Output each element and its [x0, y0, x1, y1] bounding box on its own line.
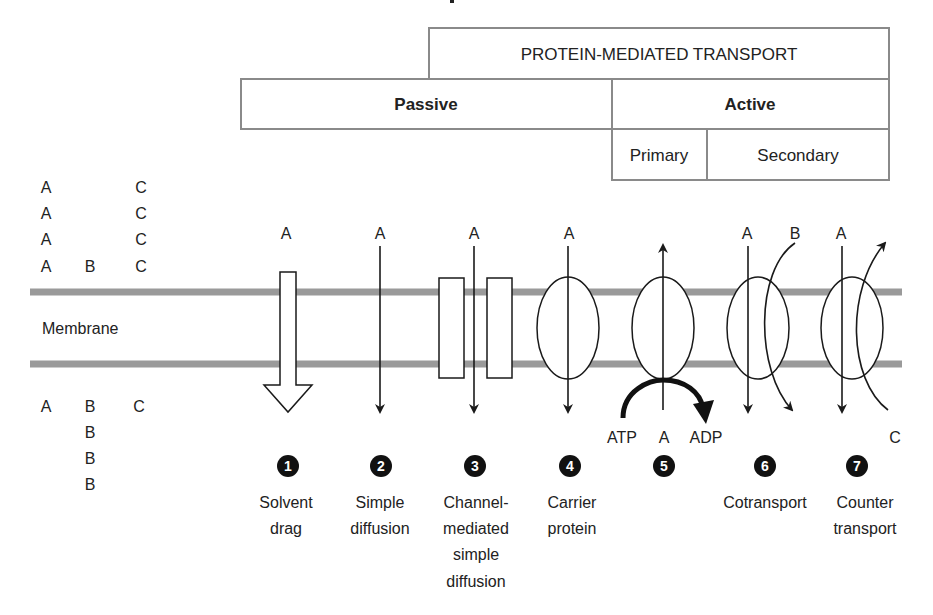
label-channel: simple: [453, 546, 499, 563]
badge-7-text: 7: [853, 458, 861, 474]
mechanism-simple-diffusion: A: [375, 225, 386, 412]
mechanism-countertransport: A C: [821, 225, 901, 446]
mechanism-carrier: A: [537, 225, 599, 412]
molecule-a: A: [41, 231, 52, 248]
inside-molecules: A B B B B C: [41, 398, 145, 493]
badge-5-text: 5: [660, 458, 668, 474]
label-solvent-drag: drag: [270, 520, 302, 537]
protein-mediated-label: PROTEIN-MEDIATED TRANSPORT: [521, 45, 798, 64]
molecule-a: A: [41, 258, 52, 275]
molecule-a: A: [742, 225, 753, 242]
molecule-c: C: [135, 258, 147, 275]
membrane-transport-diagram: PROTEIN-MEDIATED TRANSPORT Passive Activ…: [0, 0, 933, 615]
outside-molecules: A A A A B C C C C: [41, 179, 147, 275]
mechanism-primary-active: ATP A ADP: [607, 245, 722, 446]
mechanism-labels: Solvent drag Simple diffusion Channel- m…: [259, 494, 897, 590]
label-carrier: protein: [548, 520, 597, 537]
badge-6-text: 6: [761, 458, 769, 474]
atp-label: ATP: [607, 429, 637, 446]
molecule-c: C: [135, 231, 147, 248]
molecule-a: A: [836, 225, 847, 242]
molecule-b: B: [85, 258, 96, 275]
molecule-c: C: [135, 179, 147, 196]
atp-arrowhead-icon: [693, 400, 714, 424]
molecule-b: B: [85, 398, 96, 415]
badge-4-text: 4: [566, 458, 574, 474]
badge-1-text: 1: [284, 458, 292, 474]
molecule-a: A: [281, 225, 292, 242]
mechanism-solvent-drag: A: [264, 225, 312, 412]
label-simple-diffusion: diffusion: [350, 520, 409, 537]
molecule-c: C: [889, 429, 901, 446]
label-channel: mediated: [443, 520, 509, 537]
label-countertransport: transport: [833, 520, 897, 537]
number-badges: 1 2 3 4 5 6 7: [277, 455, 868, 477]
badge-2-text: 2: [377, 458, 385, 474]
molecule-a: A: [41, 398, 52, 415]
label-channel: Channel-: [444, 494, 509, 511]
label-cotransport: Cotransport: [723, 494, 807, 511]
adp-label: ADP: [690, 429, 723, 446]
molecule-a: A: [41, 205, 52, 222]
antiporter-protein: [821, 277, 883, 379]
molecule-b: B: [790, 225, 801, 242]
molecule-a: A: [375, 225, 386, 242]
label-solvent-drag: Solvent: [259, 494, 313, 511]
molecule-c: C: [135, 205, 147, 222]
primary-label: Primary: [630, 146, 689, 165]
molecule-a: A: [469, 225, 480, 242]
badge-3-text: 3: [471, 458, 479, 474]
molecule-b: B: [85, 476, 96, 493]
label-channel: diffusion: [446, 573, 505, 590]
molecule-c: C: [133, 398, 145, 415]
label-simple-diffusion: Simple: [356, 494, 405, 511]
title-remnant: [450, 0, 454, 3]
passive-label: Passive: [394, 95, 457, 114]
secondary-label: Secondary: [757, 146, 839, 165]
molecule-b: B: [85, 424, 96, 441]
molecule-a: A: [564, 225, 575, 242]
classification-table: PROTEIN-MEDIATED TRANSPORT Passive Activ…: [241, 28, 889, 180]
label-carrier: Carrier: [548, 494, 598, 511]
molecule-b: B: [85, 450, 96, 467]
mechanism-channel: A: [439, 225, 512, 412]
cotransporter-protein: [727, 277, 789, 379]
channel-protein-right: [487, 278, 512, 378]
membrane-label: Membrane: [42, 320, 119, 337]
mechanism-cotransport: A B: [727, 225, 800, 412]
label-countertransport: Counter: [837, 494, 895, 511]
channel-protein-left: [439, 278, 464, 378]
active-label: Active: [724, 95, 775, 114]
molecule-a: A: [41, 179, 52, 196]
molecule-a: A: [659, 429, 670, 446]
